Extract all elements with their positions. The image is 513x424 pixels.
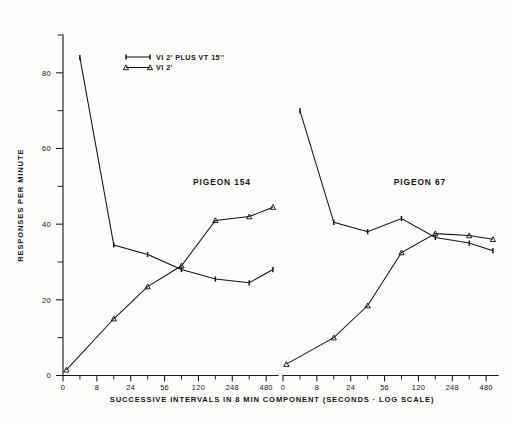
x-axis-tick-label: 480 [260, 383, 273, 392]
series-line-2 [66, 207, 273, 370]
x-axis-tick-label: 0 [61, 383, 65, 392]
figure-container: 020406080RESPONSES PER MINUTE08245612024… [0, 0, 513, 424]
x-axis-tick-label: 120 [412, 383, 425, 392]
x-axis-tick-label: 56 [160, 383, 169, 392]
x-axis-tick-label: 120 [192, 383, 205, 392]
y-axis-tick-label: 0 [46, 371, 51, 380]
y-axis-title: RESPONSES PER MINUTE [16, 149, 25, 262]
panel-title-1: PIGEON 154 [193, 177, 251, 187]
chart-svg: 020406080RESPONSES PER MINUTE08245612024… [0, 0, 513, 424]
x-axis-tick-label: 8 [95, 383, 99, 392]
legend-label-2: VI 2' [156, 63, 173, 72]
x-axis-tick-label: 480 [480, 383, 493, 392]
x-axis-tick-label: 248 [446, 383, 459, 392]
series-line-1 [80, 58, 273, 283]
legend-label-1: VI 2' PLUS VT 15'' [156, 53, 224, 62]
y-axis-tick-label: 20 [42, 296, 51, 305]
panel-title-2: PIGEON 67 [394, 177, 446, 187]
y-axis-tick-label: 80 [42, 69, 51, 78]
x-axis-tick-label: 56 [380, 383, 389, 392]
x-axis-tick-label: 24 [346, 383, 355, 392]
series-line-2 [286, 234, 493, 365]
y-axis-tick-label: 60 [42, 144, 51, 153]
x-axis-tick-label: 24 [126, 383, 135, 392]
x-axis-title: SUCCESSIVE INTERVALS IN 8 MIN COMPONENT … [110, 395, 435, 404]
x-axis-tick-label: 0 [281, 383, 285, 392]
y-axis-tick-label: 40 [42, 220, 51, 229]
x-axis-tick-label: 248 [226, 383, 239, 392]
data-point-marker [270, 205, 275, 210]
x-axis-tick-label: 8 [315, 383, 319, 392]
